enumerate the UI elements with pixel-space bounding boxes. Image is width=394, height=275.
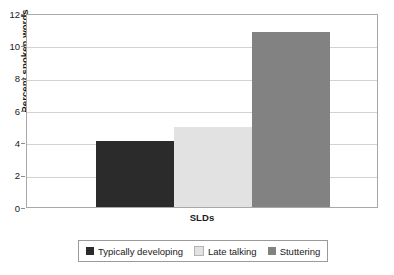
y-axis-tick-label: 10 [0,41,20,52]
legend-swatch-icon [194,246,204,256]
legend-label: Typically developing [98,246,183,257]
y-axis-tick-mark [21,79,25,80]
bar-late-talking [174,127,252,207]
bar-fill [174,127,252,207]
bar-fill [96,141,174,207]
y-axis-tick-mark [21,14,25,15]
bars-group [27,15,377,207]
bar-stuttering [252,32,330,207]
y-axis-tick-mark [21,111,25,112]
legend-label: Stuttering [280,246,321,257]
bar-typically-developing [96,141,174,207]
plot-area [26,14,378,208]
legend-swatch-icon [268,247,276,255]
y-axis-tick-mark [21,143,25,144]
y-axis-tick-label: 4 [0,138,20,149]
y-axis-tick-label: 8 [0,73,20,84]
chart-legend: Typically developingLate talkingStutteri… [78,240,328,262]
x-axis-title: SLDs [26,212,378,223]
y-axis-tick-mark [21,176,25,177]
y-axis-tick-label: 2 [0,170,20,181]
y-axis-tick-label: 6 [0,106,20,117]
legend-item[interactable]: Late talking [194,246,257,257]
y-axis-tick-mark [21,46,25,47]
y-axis-tick-labels: 121086420 [0,14,20,208]
bar-fill [252,32,330,207]
y-axis-tick-label: 12 [0,9,20,20]
legend-item[interactable]: Typically developing [86,246,183,257]
legend-label: Late talking [208,246,257,257]
y-axis-tick-label: 0 [0,203,20,214]
legend-item[interactable]: Stuttering [268,246,321,257]
legend-swatch-icon [86,247,94,255]
y-axis-tick-mark [21,208,25,209]
bar-chart: Percent spoken words 121086420 SLDs Typi… [0,0,394,275]
